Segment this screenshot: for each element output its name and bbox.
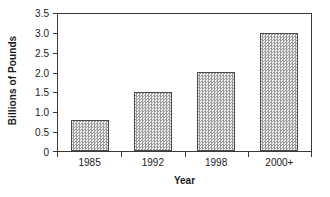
y-axis-title: Billions of Pounds [0,0,26,160]
bar-slot [58,14,121,151]
y-tick-label: 1.5 [35,87,49,98]
bar-slot [121,14,184,151]
bar-1992 [134,92,172,151]
y-tick-label: 2.5 [35,47,49,58]
y-tick-label: 0.5 [35,127,49,138]
y-tick-label: 2.0 [35,67,49,78]
bar-slot [185,14,248,151]
x-axis-title: Year [57,175,312,186]
bar-2000plus [260,33,298,151]
bar-slot [248,14,311,151]
y-tick-label: 1.0 [35,107,49,118]
x-axis-tick-labels: 1985 1992 1998 2000+ [58,157,311,173]
x-tick-mark [311,152,312,157]
y-axis-title-text: Billions of Pounds [8,35,19,125]
x-tick-label: 1985 [58,157,121,173]
x-tick-label: 1992 [121,157,184,173]
bars-container [58,14,311,151]
y-tick-label: 0 [43,147,49,158]
y-axis-tick-labels: 3.5 3.0 2.5 2.0 1.5 1.0 0.5 0 [26,13,52,152]
x-tick-label: 2000+ [248,157,311,173]
y-tick-label: 3.0 [35,27,49,38]
bar-chart: Billions of Pounds 3.5 3.0 2.5 2.0 1.5 1… [0,0,330,197]
bar-1998 [197,72,235,151]
x-tick-label: 1998 [185,157,248,173]
y-tick-label: 3.5 [35,8,49,19]
bar-1985 [71,120,109,151]
